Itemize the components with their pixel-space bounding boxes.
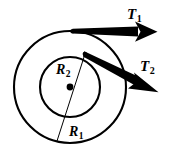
T2-arrow-shaft [83,51,140,86]
T1-arrow-head [135,22,158,42]
label-R1-base: R [69,124,78,139]
label-R2: R2 [56,61,71,79]
label-R1: R1 [69,123,84,141]
label-T2-base: T [140,58,149,74]
label-R2-base: R [56,62,65,77]
label-R1-subscript: 1 [79,131,84,141]
label-T1-base: T [127,6,136,22]
center-hub-dot [67,84,74,91]
T1-attachment-point [70,29,74,33]
T2-attachment-point [83,52,87,56]
force-arrow-T1 [70,22,157,42]
label-T2: T2 [140,58,155,76]
diagram-canvas [0,0,173,153]
pulley-diagram: T1 T2 R1 R2 [0,0,173,153]
label-R2-subscript: 2 [66,69,71,79]
label-T2-subscript: 2 [150,65,155,76]
label-T1-subscript: 1 [137,13,142,24]
T1-arrow-shaft [73,27,139,37]
label-T1: T1 [127,6,142,24]
